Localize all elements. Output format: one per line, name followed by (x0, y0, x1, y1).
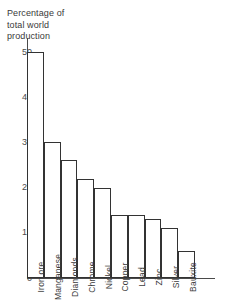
bar: Bauxite (178, 251, 195, 278)
bar-label: Nickel (94, 262, 103, 286)
bar-label: Bauxite (178, 259, 187, 289)
bar-label: Copper (110, 259, 119, 288)
bar: Zinc (145, 219, 162, 278)
bars-group: Iron oreManganeseDiamondsChromeNickelCop… (27, 0, 215, 300)
bar-label: Silver (161, 263, 170, 285)
bar-label: Zinc (144, 266, 153, 283)
plot-area: 01020304050 Iron oreManganeseDiamondsChr… (0, 0, 231, 300)
bar: Iron ore (27, 52, 44, 278)
bar-label: Lead (127, 264, 136, 284)
bar: Diamonds (61, 160, 78, 278)
bar-label: Chrome (77, 258, 86, 289)
bar-label-text: Bauxite (189, 262, 198, 292)
bar-chart-figure: Percentage of total world production 010… (0, 0, 231, 300)
bar-label: Manganese (43, 251, 52, 297)
bar-label: Diamonds (60, 254, 69, 294)
bar: Manganese (44, 142, 61, 278)
bar: Silver (161, 228, 178, 278)
bar: Nickel (94, 188, 111, 278)
bar: Chrome (77, 179, 94, 278)
bar: Copper (111, 215, 128, 278)
bar-label: Iron ore (26, 259, 35, 290)
bar: Lead (128, 215, 145, 278)
